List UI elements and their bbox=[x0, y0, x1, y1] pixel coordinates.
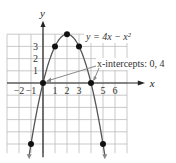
equation-label: y = 4x − x² bbox=[85, 31, 132, 42]
data-point bbox=[52, 43, 58, 49]
y-axis-label: y bbox=[39, 7, 45, 19]
x-tick-label: 6 bbox=[113, 85, 118, 96]
parabola-chart: xy−2−112356123y = 4x − x²x-intercepts: 0… bbox=[0, 0, 176, 163]
x-tick-label: 1 bbox=[53, 85, 58, 96]
data-point bbox=[28, 141, 34, 147]
intercepts-annotation: x-intercepts: 0, 4 bbox=[97, 58, 164, 69]
x-tick-label: −1 bbox=[26, 85, 37, 96]
x-axis-label: x bbox=[149, 77, 155, 89]
curve-arrow-icon bbox=[102, 154, 107, 159]
x-tick-label: −2 bbox=[14, 85, 25, 96]
arrow-head-icon bbox=[46, 78, 51, 83]
y-tick-label: 2 bbox=[33, 53, 38, 64]
arrow-head-icon bbox=[93, 76, 97, 81]
x-tick-label: 2 bbox=[65, 85, 70, 96]
y-tick-label: 1 bbox=[33, 65, 38, 76]
data-point bbox=[64, 31, 70, 37]
data-point bbox=[76, 43, 82, 49]
x-tick-label: 5 bbox=[101, 85, 106, 96]
y-axis-arrow-icon bbox=[41, 21, 46, 27]
x-tick-label: 3 bbox=[77, 85, 82, 96]
data-point bbox=[100, 141, 106, 147]
y-tick-label: 3 bbox=[33, 41, 38, 52]
data-point bbox=[40, 80, 46, 86]
x-axis-arrow-icon bbox=[138, 81, 145, 86]
curve-arrow-icon bbox=[27, 154, 32, 159]
